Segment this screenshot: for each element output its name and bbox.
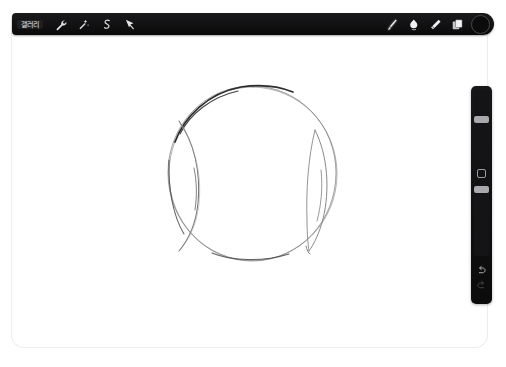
brush-size-thumb[interactable] (474, 116, 489, 123)
redo-arrow-icon (476, 280, 487, 291)
outer-circle-dark-accent (175, 86, 293, 142)
smudge-tool-button[interactable]: 문지르기 (405, 13, 422, 35)
drawing-canvas[interactable]: 구체 스케치 (12, 20, 489, 348)
undo-button[interactable]: 실행 취소 (471, 263, 492, 278)
layers-icon (451, 18, 464, 31)
magic-wand-icon (77, 18, 90, 31)
top-toolbar: 갤러리 동작 조정 선택 (12, 13, 494, 35)
gallery-button[interactable]: 갤러리 (17, 20, 43, 29)
brush-size-label: 브러시 크기 (474, 90, 475, 91)
brush-icon (385, 18, 398, 31)
procreate-app: 구체 스케치 (0, 0, 506, 367)
color-swatch-label: 색상 (472, 16, 473, 17)
right-tool-group: 브러시 문지르기 지우개 (383, 13, 466, 35)
eraser-icon (429, 18, 442, 31)
left-inner-arc-shading (194, 168, 196, 210)
canvas-sheet: 구체 스케치 (11, 20, 488, 348)
s-curve-icon (100, 18, 113, 31)
right-inner-arc-outer (309, 130, 327, 251)
redo-button[interactable]: 다시 실행 (471, 278, 492, 293)
arrow-icon (123, 18, 136, 31)
brush-opacity-label: 불투명도 (474, 184, 475, 185)
layers-tool-button[interactable]: 레이어 (449, 13, 466, 35)
side-toolbar: 브러시 크기 수정 불투명도 실행 취소 다시 실행 (471, 86, 492, 304)
adjustments-tool-button[interactable]: 조정 (73, 13, 94, 35)
left-tool-group: 동작 조정 선택 (50, 13, 140, 35)
brush-size-slider[interactable]: 브러시 크기 (474, 90, 489, 162)
modify-button-label: 수정 (478, 170, 479, 171)
artwork-sphere-sketch: 구체 스케치 (12, 20, 489, 348)
modify-button[interactable]: 수정 (477, 169, 486, 178)
brush-opacity-thumb[interactable] (474, 186, 489, 193)
wrench-icon (54, 18, 67, 31)
transform-tool-button[interactable]: 변형 (119, 13, 140, 35)
actions-tool-button[interactable]: 동작 (50, 13, 71, 35)
outer-circle-bottom-accent (212, 253, 289, 260)
selection-tool-button[interactable]: 선택 (96, 13, 117, 35)
status-bar (0, 0, 506, 11)
erase-tool-button[interactable]: 지우개 (427, 13, 444, 35)
smudge-icon (407, 18, 420, 31)
undo-arrow-icon (476, 265, 487, 276)
outer-circle-left-flank-accent (169, 160, 184, 234)
color-swatch-button[interactable]: 색상 (471, 15, 490, 34)
paint-tool-button[interactable]: 브러시 (383, 13, 400, 35)
right-inner-arc-shading (317, 170, 322, 221)
brush-opacity-slider[interactable]: 불투명도 (474, 184, 489, 256)
